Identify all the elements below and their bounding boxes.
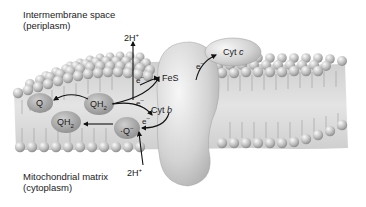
q-radical-label: ·Q– [120, 123, 133, 136]
proton-uptake-label: 2H+ [127, 165, 142, 178]
fes-label: FeS [162, 73, 179, 83]
proton-release-label: 2H+ [124, 30, 139, 43]
mitochondrial-matrix-line1: Mitochondrial matrix [23, 171, 108, 182]
electron-label-3: e– [142, 113, 150, 127]
q-cycle-diagram: Intermembrane space (periplasm) Mitochon… [0, 0, 366, 207]
electron-label-1: e– [136, 72, 144, 86]
intermembrane-space-line2: (periplasm) [23, 20, 115, 31]
qh2-upper-label: QH2 [90, 99, 107, 113]
mitochondrial-matrix-label: Mitochondrial matrix (cytoplasm) [23, 171, 108, 193]
intermembrane-space-label: Intermembrane space (periplasm) [23, 9, 115, 31]
electron-label-4: e– [196, 58, 204, 72]
intermembrane-space-line1: Intermembrane space [23, 9, 115, 20]
cyt-b-label: Cyt b [151, 105, 172, 115]
mitochondrial-matrix-line2: (cytoplasm) [23, 182, 108, 193]
q-label: Q [36, 98, 43, 108]
qh2-lower-label: QH2 [57, 117, 74, 131]
electron-label-2: e– [136, 95, 144, 109]
cyt-c-label: Cyt c [223, 47, 244, 57]
